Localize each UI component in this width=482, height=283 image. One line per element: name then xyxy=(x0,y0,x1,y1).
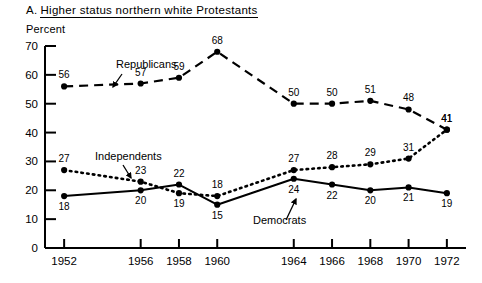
data-point-label: 22 xyxy=(326,190,338,201)
data-point-label: 21 xyxy=(403,192,415,203)
x-tick-label: 1952 xyxy=(51,255,77,267)
data-point xyxy=(367,187,373,193)
data-point-label: 23 xyxy=(135,165,147,176)
chart-figure: A.Higher status northern white Protestan… xyxy=(0,0,482,283)
series-line-independents xyxy=(64,130,447,196)
y-tick-label: 10 xyxy=(25,213,38,225)
data-point xyxy=(214,202,220,208)
data-point-label: 27 xyxy=(59,153,71,164)
data-point xyxy=(291,101,297,107)
series-annotation-democrats: Democrats xyxy=(253,214,307,226)
data-point xyxy=(176,190,182,196)
data-point-label: 15 xyxy=(212,210,224,221)
data-point-label: 29 xyxy=(365,147,377,158)
data-point-label: 68 xyxy=(212,35,224,46)
data-point-label: 18 xyxy=(59,201,71,212)
data-point xyxy=(176,181,182,187)
y-tick-label: 60 xyxy=(25,69,38,81)
y-tick-label: 0 xyxy=(32,242,38,254)
data-point-label: 50 xyxy=(288,87,300,98)
series-points xyxy=(61,49,450,208)
data-point xyxy=(138,80,144,86)
data-point-label: 51 xyxy=(365,84,377,95)
data-point xyxy=(61,193,67,199)
y-tick-label: 20 xyxy=(25,184,38,196)
data-point xyxy=(329,164,335,170)
data-point-label: 56 xyxy=(59,69,71,80)
x-tick-label: 1966 xyxy=(319,255,345,267)
data-point xyxy=(329,101,335,107)
data-point xyxy=(444,127,450,133)
y-tick-label: 70 xyxy=(25,40,38,52)
data-point-label: 24 xyxy=(288,184,300,195)
data-point xyxy=(405,155,411,161)
series-annotation-republicans: Republicans xyxy=(116,58,177,70)
series-annotation-independents: Independents xyxy=(95,150,162,162)
data-point xyxy=(176,75,182,81)
data-point-label: 27 xyxy=(288,153,300,164)
data-point xyxy=(405,184,411,190)
x-tick-label: 1964 xyxy=(281,255,307,267)
data-point xyxy=(367,161,373,167)
x-tick-label: 1972 xyxy=(434,255,460,267)
data-point-label: 50 xyxy=(326,87,338,98)
x-tick-label: 1968 xyxy=(358,255,384,267)
data-point-label: 28 xyxy=(326,150,338,161)
data-point-label: 19 xyxy=(173,198,185,209)
x-tick-label: 1958 xyxy=(166,255,192,267)
data-point xyxy=(214,193,220,199)
data-point xyxy=(61,167,67,173)
data-point-label: 18 xyxy=(212,179,224,190)
data-point-label: 19 xyxy=(441,198,453,209)
x-tick-label: 1956 xyxy=(128,255,154,267)
data-point xyxy=(367,98,373,104)
data-point xyxy=(61,83,67,89)
y-tick-label: 50 xyxy=(25,98,38,110)
x-tick-label: 1970 xyxy=(396,255,422,267)
data-point xyxy=(329,181,335,187)
data-point-label: 20 xyxy=(365,195,377,206)
y-axis-ticks: 010203040506070 xyxy=(25,40,56,254)
data-point-label: 48 xyxy=(403,92,415,103)
data-point-label: 31 xyxy=(403,142,415,153)
x-axis-ticks: 195219561958196019641966196819701972 xyxy=(51,239,459,267)
data-point xyxy=(291,167,297,173)
data-point-label: 20 xyxy=(135,195,147,206)
data-point xyxy=(444,190,450,196)
y-tick-label: 30 xyxy=(25,155,38,167)
data-point xyxy=(138,187,144,193)
data-point-label: 22 xyxy=(173,168,185,179)
data-point xyxy=(405,106,411,112)
data-point xyxy=(214,49,220,55)
chart-canvas: 010203040506070 195219561958196019641966… xyxy=(0,0,482,283)
data-point xyxy=(138,179,144,185)
x-tick-label: 1960 xyxy=(204,255,230,267)
data-point-label: 41 xyxy=(441,113,453,124)
data-point xyxy=(291,176,297,182)
series-annotation-leader xyxy=(123,165,131,178)
y-tick-label: 40 xyxy=(25,127,38,139)
